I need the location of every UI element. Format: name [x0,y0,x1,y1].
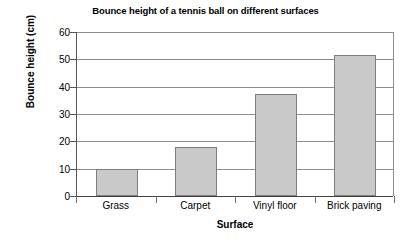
x-tick-label: Vinyl floor [253,200,297,211]
y-tick-label: 60 [30,27,70,38]
x-tick-mark [76,196,77,203]
y-tick-label: 0 [30,191,70,202]
bar-chart-figure: Bounce height of a tennis ball on differ… [0,0,411,244]
x-tick-label: Brick paving [327,200,381,211]
chart-title: Bounce height of a tennis ball on differ… [0,5,411,16]
x-axis-title: Surface [76,219,394,230]
x-tick-mark [315,196,316,203]
bar [255,94,297,197]
plot-area [76,32,394,196]
y-tick-label: 30 [30,109,70,120]
y-tick-label: 10 [30,163,70,174]
x-tick-mark [394,196,395,203]
bar [334,55,376,196]
gridline [77,32,393,33]
x-tick-label: Grass [102,200,129,211]
y-tick-label: 50 [30,54,70,65]
x-tick-mark [156,196,157,203]
y-tick-label: 40 [30,81,70,92]
x-tick-mark [235,196,236,203]
bar [96,169,138,196]
bar [175,147,217,196]
x-tick-label: Carpet [180,200,210,211]
y-tick-label: 20 [30,136,70,147]
